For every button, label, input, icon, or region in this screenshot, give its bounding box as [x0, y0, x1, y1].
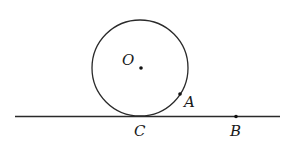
point-a-dot — [178, 92, 182, 96]
point-b-dot — [234, 115, 238, 119]
label-a: A — [184, 95, 195, 110]
geometry-figure — [0, 0, 292, 141]
label-o: O — [122, 53, 134, 68]
label-b: B — [230, 124, 241, 139]
point-o-dot — [139, 66, 143, 70]
label-c: C — [134, 124, 145, 139]
diagram-canvas: O A C B — [0, 0, 292, 141]
